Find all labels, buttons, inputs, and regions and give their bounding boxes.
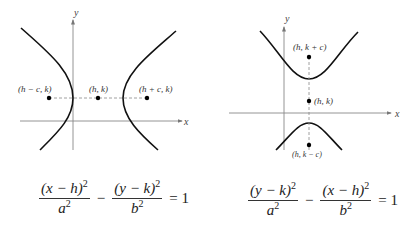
top-focus-point xyxy=(307,55,311,59)
left-center-label: (h, k) xyxy=(89,84,108,94)
right-focus-label: (h + c, k) xyxy=(139,84,173,94)
left-term1-num: (x − h) xyxy=(41,180,83,196)
left-rhs: = 1 xyxy=(169,190,189,207)
right-term1: (y − k)2 a2 xyxy=(248,182,298,219)
left-focus-point xyxy=(47,96,51,100)
right-center-point xyxy=(307,99,311,103)
right-y-axis-label: y xyxy=(284,13,290,24)
right-minus-sign: − xyxy=(305,192,313,209)
right-focus-point xyxy=(145,96,149,100)
top-focus-label: (h, k + c) xyxy=(293,42,327,52)
left-y-axis-label: y xyxy=(73,7,79,18)
right-hyperbola-graph: x y (h, k + c) (h, k) (h, k − c) xyxy=(229,13,400,159)
left-term1: (x − h)2 a2 xyxy=(39,180,90,217)
right-equation: (y − k)2 a2 − (x − h)2 b2 = 1 xyxy=(245,182,402,219)
left-x-axis-label: x xyxy=(183,116,189,127)
right-center-label: (h, k) xyxy=(314,96,333,106)
left-center-point xyxy=(96,96,100,100)
left-term2: (y − k)2 b2 xyxy=(112,180,162,217)
right-term2-den: b xyxy=(340,202,348,218)
right-rhs: = 1 xyxy=(378,192,398,209)
left-hyperbola-graph: x y (h − c, k) (h, k) (h + c, k) xyxy=(18,7,189,150)
right-term1-num: (y − k) xyxy=(250,182,291,198)
right-term2: (x − h)2 b2 xyxy=(320,182,371,219)
left-term1-den: a xyxy=(58,200,66,216)
right-term2-num: (x − h) xyxy=(322,182,364,198)
right-x-axis-label: x xyxy=(394,108,400,119)
left-term2-num: (y − k) xyxy=(114,180,155,196)
left-minus-sign: − xyxy=(97,190,105,207)
left-focus-label: (h − c, k) xyxy=(18,84,52,94)
left-equation: (x − h)2 a2 − (y − k)2 b2 = 1 xyxy=(36,180,193,217)
bottom-focus-label: (h, k − c) xyxy=(292,150,322,159)
bottom-focus-point xyxy=(307,143,311,147)
